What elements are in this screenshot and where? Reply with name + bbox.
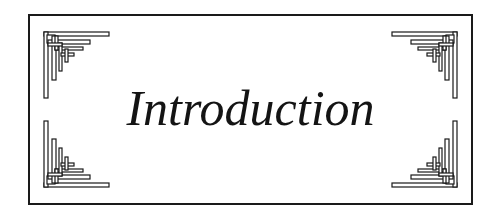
title-frame: Introduction [28, 14, 473, 205]
page-title: Introduction [30, 78, 471, 136]
